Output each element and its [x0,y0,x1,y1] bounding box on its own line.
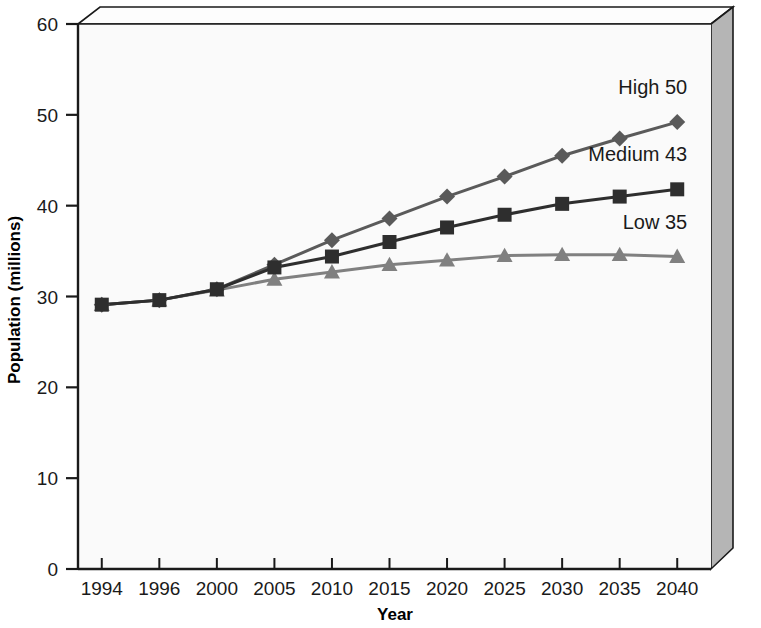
x-tick-label: 1994 [81,578,124,599]
y-tick-label: 20 [37,377,58,398]
chart-box-top-face [78,7,733,24]
data-point-square [210,282,224,296]
x-tick-label: 2015 [368,578,410,599]
y-axis-title: Population (millions) [5,216,24,384]
y-tick-label: 60 [37,14,58,35]
y-tick-label: 0 [47,559,58,580]
data-point-square [613,190,627,204]
x-tick-label: 1996 [138,578,180,599]
population-projection-chart: 0102030405060 19941996200020052010201520… [0,0,761,628]
y-axis-ticks [66,24,78,569]
x-axis-tick-labels: 1994199620002005201020152020202520302035… [81,578,699,599]
x-tick-label: 2030 [541,578,583,599]
y-tick-label: 50 [37,105,58,126]
y-tick-label: 10 [37,468,58,489]
data-point-square [383,235,397,249]
data-point-square [440,220,454,234]
x-tick-label: 2025 [483,578,525,599]
x-tick-label: 2035 [599,578,641,599]
x-tick-label: 2000 [196,578,238,599]
x-tick-label: 2020 [426,578,468,599]
y-tick-label: 40 [37,196,58,217]
data-point-square [152,293,166,307]
chart-container: 0102030405060 19941996200020052010201520… [0,0,761,628]
series-label-low: Low 35 [623,211,688,233]
data-point-square [95,298,109,312]
x-tick-label: 2010 [311,578,353,599]
data-point-square [325,250,339,264]
y-axis-tick-labels: 0102030405060 [37,14,58,580]
x-tick-label: 2005 [253,578,295,599]
x-tick-label: 2040 [656,578,698,599]
data-point-square [555,197,569,211]
data-point-square [670,182,684,196]
y-tick-label: 30 [37,287,58,308]
series-label-medium: Medium 43 [588,143,687,165]
x-axis-title: Year [377,605,413,624]
data-point-square [498,208,512,222]
series-label-high: High 50 [618,76,687,98]
data-point-square [267,260,281,274]
chart-box-side-face [711,7,733,569]
